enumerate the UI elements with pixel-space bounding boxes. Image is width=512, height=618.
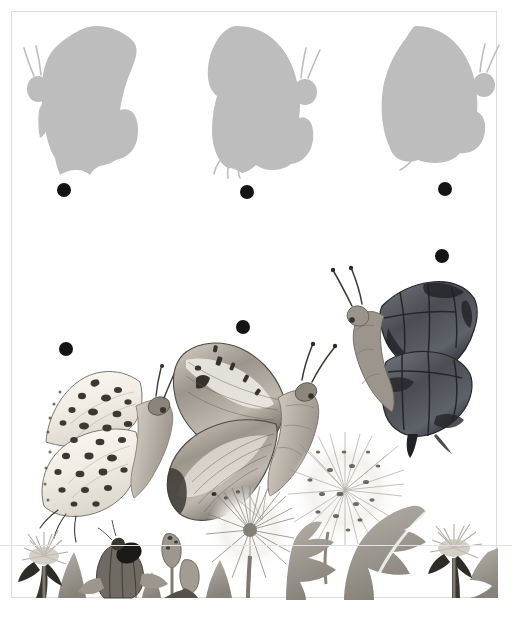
worksheet-page bbox=[0, 0, 512, 618]
page-frame bbox=[11, 11, 497, 598]
dot-silhouette-1[interactable] bbox=[57, 183, 71, 197]
dot-butterfly-painted[interactable] bbox=[236, 320, 250, 334]
dot-silhouette-2[interactable] bbox=[240, 185, 254, 199]
dot-butterfly-spotted[interactable] bbox=[59, 342, 73, 356]
dot-butterfly-dark[interactable] bbox=[435, 249, 449, 263]
fold-line bbox=[0, 545, 512, 546]
dot-silhouette-3[interactable] bbox=[438, 182, 452, 196]
